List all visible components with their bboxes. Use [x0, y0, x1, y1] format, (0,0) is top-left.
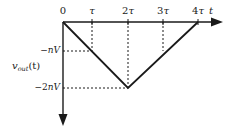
x-tick-label-tau: τ — [85, 6, 99, 16]
waveform-trace — [63, 22, 198, 88]
x-tick-label-0: 0 — [56, 6, 70, 16]
y-axis-arrowhead — [59, 114, 68, 126]
x-tick-label-3tau: 3τ — [154, 6, 172, 16]
x-tick-label-4tau: 4τ — [189, 6, 207, 16]
x-axis-name: t — [209, 6, 213, 16]
x-tick-label-2tau: 2τ — [119, 6, 137, 16]
x-axis-arrowhead — [211, 18, 223, 27]
waveform-figure: 0 τ 2τ 3τ 4τ t −nV −2nV vout(t) — [0, 0, 240, 131]
y-label-minus-nv: −nV — [8, 46, 60, 55]
y-axis-signal-label: vout(t) — [12, 61, 40, 71]
y-label-minus-2nv: −2nV — [8, 83, 60, 92]
